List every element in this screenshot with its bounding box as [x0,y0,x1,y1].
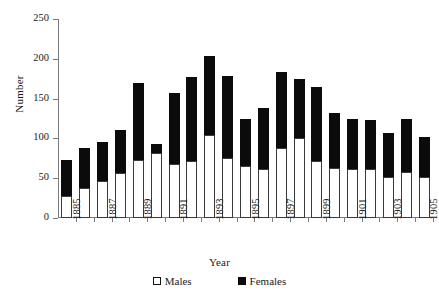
x-axis-tick-label: 1901 [357,198,368,220]
x-axis-tick-label: 1889 [142,198,153,220]
bar-1898 [294,79,305,218]
bar-segment-females [276,72,287,148]
legend-label: Males [165,275,192,287]
y-axis-tick: 100 [53,138,58,139]
bar-segment-females [61,160,72,196]
x-axis-tick-label: 1905 [428,198,439,220]
bar-segment-females [151,144,162,153]
bar-segment-females [294,79,305,139]
y-axis-tick: 50 [53,178,58,179]
x-axis-tick-label: 1885 [71,198,82,220]
y-axis-tick-label: 100 [9,131,49,142]
bar-segment-females [222,76,233,157]
bar-segment-females [401,119,412,172]
bar-segment-females [115,130,126,172]
stacked-bar-chart: Number 050100150200250 18851887188918911… [0,0,439,298]
bar-segment-females [347,119,358,168]
bars-layer [58,19,433,218]
y-axis-tick: 250 [53,19,58,20]
x-axis-tick-label: 1895 [250,198,261,220]
bar-segment-females [258,108,269,168]
y-axis-tick-label: 250 [9,12,49,23]
bar-segment-females [311,87,322,161]
bar-segment-females [329,113,340,168]
bar-segment-females [186,77,197,161]
plot-area: 050100150200250 [58,19,433,218]
legend-item-females[interactable]: Females [238,275,287,287]
x-axis-tick-label: 1891 [178,198,189,220]
x-axis-title: Year [0,256,439,268]
y-axis-tick-label: 200 [9,52,49,63]
y-axis-tick: 150 [53,99,58,100]
x-tick-labels: 1885188718891891189318951897189919011903… [58,220,433,254]
bar-segment-females [383,133,394,177]
bar-segment-females [169,93,180,164]
y-axis-tick: 200 [53,59,58,60]
x-axis-tick-label: 1903 [392,198,403,220]
bar-1894 [222,76,233,218]
x-axis-tick-label: 1887 [107,198,118,220]
bar-segment-females [79,148,90,188]
bar-segment-females [133,83,144,160]
legend-item-males[interactable]: Males [153,275,192,287]
legend-label: Females [250,275,287,287]
x-axis-tick-label: 1893 [214,198,225,220]
y-axis-tick-label: 150 [9,92,49,103]
bar-segment-females [97,142,108,180]
black-square-icon [238,277,246,285]
bar-1892 [186,77,197,218]
bar-1897 [276,72,287,218]
bar-segment-females [419,137,430,177]
x-axis-tick-label: 1897 [285,198,296,220]
bar-1893 [204,56,215,218]
bar-segment-females [365,120,376,169]
y-axis-tick-label: 50 [9,171,49,182]
x-axis-tick-label: 1899 [321,198,332,220]
bar-segment-females [204,56,215,135]
y-axis-tick-label: 0 [9,211,49,222]
chart-legend: MalesFemales [0,275,439,287]
bar-segment-females [240,119,251,166]
y-axis-tick: 0 [53,218,58,219]
white-square-icon [153,277,161,285]
